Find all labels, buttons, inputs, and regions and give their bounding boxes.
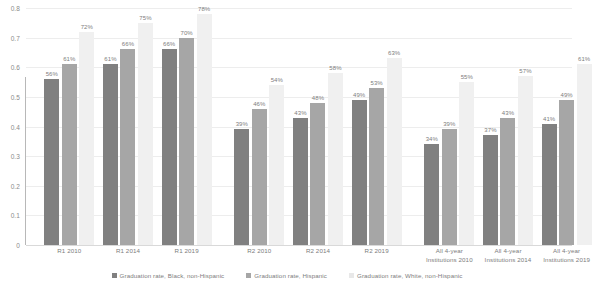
bar-group: 56%61%72% [40, 8, 99, 245]
axis-baseline [26, 245, 572, 246]
category-label-line: Institutions 2014 [479, 256, 538, 265]
bar-slot: 49% [352, 8, 367, 245]
legend-item[interactable]: Graduation rate, Hispanic [246, 272, 327, 279]
bar[interactable] [62, 64, 77, 245]
bar[interactable] [352, 100, 367, 245]
category-label-line: Institutions 2010 [420, 256, 479, 265]
category-label-line: R1 2014 [99, 247, 158, 256]
bar[interactable] [293, 118, 308, 245]
category-label-line: R1 2010 [40, 247, 99, 256]
bar-slot: 63% [387, 8, 402, 245]
bar-group: 43%48%58% [289, 8, 348, 245]
x-axis-category-label: All 4-yearInstitutions 2014 [479, 247, 538, 264]
bar-group: 41%49%61% [537, 8, 596, 245]
legend-label: Graduation rate, Black, non-Hispanic [120, 272, 225, 279]
bar-group: 49%53%63% [347, 8, 406, 245]
x-axis-category-label: All 4-yearInstitutions 2010 [420, 247, 479, 264]
y-axis-tick-label: 0.5 [11, 93, 20, 100]
bar-slot: 56% [44, 8, 59, 245]
bar-slot: 66% [120, 8, 135, 245]
bar-slot: 37% [483, 8, 498, 245]
bar[interactable] [44, 79, 59, 245]
chart-legend: Graduation rate, Black, non-HispanicGrad… [0, 272, 574, 279]
y-axis-tick-label: 0.4 [11, 123, 20, 130]
legend-swatch-icon [112, 273, 117, 278]
bar-slot: 54% [269, 8, 284, 245]
x-axis-category-label: All 4-yearInstitutions 2019 [537, 247, 596, 264]
bar[interactable] [559, 100, 574, 245]
category-label-line: All 4-year [479, 247, 538, 256]
bar[interactable] [387, 58, 402, 245]
legend-swatch-icon [246, 273, 251, 278]
bar-slot: 70% [179, 8, 194, 245]
bar-slot: 39% [234, 8, 249, 245]
y-axis: 0.80.70.60.50.40.30.20.10 [0, 8, 24, 245]
category-label-line: R2 2014 [289, 247, 348, 256]
bar-slot: 61% [62, 8, 77, 245]
bar-slot: 58% [328, 8, 343, 245]
x-axis-category-labels: R1 2010R1 2014R1 2019R2 2010R2 2014R2 20… [26, 247, 572, 271]
bar-slot: 72% [79, 8, 94, 245]
legend-item[interactable]: Graduation rate, Black, non-Hispanic [112, 272, 225, 279]
bar[interactable] [310, 103, 325, 245]
x-axis-category-label: R1 2014 [99, 247, 158, 256]
y-axis-tick-label: 0.6 [11, 64, 20, 71]
x-axis-category-label: R2 2010 [230, 247, 289, 256]
bar[interactable] [234, 129, 249, 245]
bar-value-label: 78% [184, 6, 224, 12]
bar-slot: 48% [310, 8, 325, 245]
category-label-line: Institutions 2019 [537, 256, 596, 265]
bar[interactable] [328, 73, 343, 245]
category-label-line: All 4-year [420, 247, 479, 256]
bar-value-label: 61% [564, 56, 596, 62]
bar-groups: 56%61%72%61%66%75%66%70%78%39%46%54%43%4… [26, 8, 572, 245]
bar-slot: 39% [442, 8, 457, 245]
bar-slot: 53% [369, 8, 384, 245]
category-label-line: R1 2019 [157, 247, 216, 256]
bar[interactable] [577, 64, 592, 245]
category-label-line: R2 2019 [347, 247, 406, 256]
x-axis-category-label: R2 2019 [347, 247, 406, 256]
bar-group: 37%43%57% [479, 8, 538, 245]
bar[interactable] [518, 76, 533, 245]
legend-label: Graduation rate, White, non-Hispanic [357, 272, 462, 279]
y-axis-tick-label: 0 [16, 242, 20, 249]
bar[interactable] [252, 109, 267, 245]
bar[interactable] [542, 124, 557, 245]
legend-item[interactable]: Graduation rate, White, non-Hispanic [349, 272, 462, 279]
bar[interactable] [197, 14, 212, 245]
category-label-line: R2 2010 [230, 247, 289, 256]
bar-slot: 57% [518, 8, 533, 245]
bar-slot: 66% [162, 8, 177, 245]
bar-group: 39%46%54% [230, 8, 289, 245]
bar[interactable] [459, 82, 474, 245]
bar[interactable] [138, 23, 153, 245]
bar-slot: 43% [293, 8, 308, 245]
x-axis-category-label: R1 2010 [40, 247, 99, 256]
bar[interactable] [442, 129, 457, 245]
category-label-line: All 4-year [537, 247, 596, 256]
bar[interactable] [424, 144, 439, 245]
bar[interactable] [179, 38, 194, 245]
bar-slot: 78% [197, 8, 212, 245]
bar[interactable] [79, 32, 94, 245]
y-axis-tick-label: 0.7 [11, 34, 20, 41]
x-axis-category-label: R2 2014 [289, 247, 348, 256]
legend-label: Graduation rate, Hispanic [254, 272, 327, 279]
bar-group: 66%70%78% [157, 8, 216, 245]
bar[interactable] [369, 88, 384, 245]
bar[interactable] [120, 49, 135, 245]
bar-slot: 46% [252, 8, 267, 245]
bar[interactable] [500, 118, 515, 245]
y-axis-tick-label: 0.8 [11, 5, 20, 12]
bar[interactable] [483, 135, 498, 245]
y-axis-tick-label: 0.1 [11, 212, 20, 219]
bar-value-label: 63% [374, 50, 414, 56]
legend-swatch-icon [349, 273, 354, 278]
bar[interactable] [103, 64, 118, 245]
bar[interactable] [162, 49, 177, 245]
bar-slot: 61% [577, 8, 592, 245]
bar-slot: 41% [542, 8, 557, 245]
bar-slot: 43% [500, 8, 515, 245]
